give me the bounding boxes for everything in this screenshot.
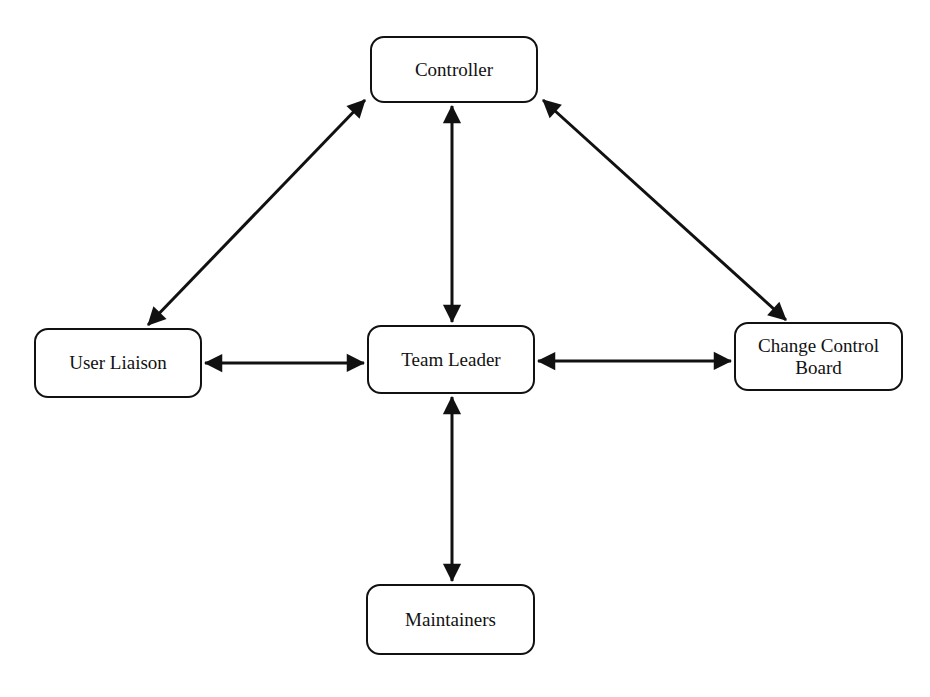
node-user-liaison: User Liaison xyxy=(34,328,202,398)
node-controller-label: Controller xyxy=(415,59,493,81)
node-maintainers: Maintainers xyxy=(366,584,535,655)
edge-controller-change-control-board xyxy=(543,100,786,320)
edge-controller-user-liaison xyxy=(148,100,365,325)
node-user-liaison-label: User Liaison xyxy=(69,352,167,374)
node-team-leader-label: Team Leader xyxy=(401,349,500,371)
node-change-control-board: Change Control Board xyxy=(734,322,903,391)
node-team-leader: Team Leader xyxy=(367,325,535,394)
node-controller: Controller xyxy=(370,36,538,103)
node-change-control-board-label: Change Control Board xyxy=(742,335,895,379)
node-maintainers-label: Maintainers xyxy=(405,609,496,631)
